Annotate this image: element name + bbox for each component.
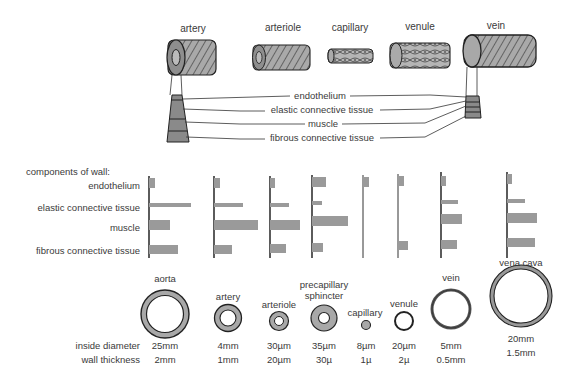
bar <box>149 220 170 230</box>
bar <box>312 177 326 187</box>
vein-wall-section <box>465 67 481 118</box>
label-venule: venule <box>405 21 434 32</box>
bar <box>507 199 525 203</box>
cs-name-venule: venule <box>390 298 418 309</box>
bar <box>149 203 191 207</box>
inside-diameter-value: 8µm <box>357 340 376 351</box>
bar <box>507 174 512 184</box>
layer-label-elastic: elastic connective tissue <box>271 104 373 115</box>
wall-thickness-value: 2µ <box>399 354 410 365</box>
layer-label-fibrous: fibrous connective tissue <box>270 132 374 143</box>
label-artery: artery <box>180 23 206 34</box>
inside-diameter-value: 20µm <box>392 340 416 351</box>
bar <box>214 220 258 230</box>
layer-label-muscle: muscle <box>308 118 338 129</box>
cs-name-arteriole: arteriole <box>262 299 296 310</box>
bar <box>270 178 275 188</box>
arteriole-illustration <box>253 45 311 70</box>
bar <box>312 201 322 205</box>
bar <box>214 203 243 207</box>
component-row-endothelium: endothelium <box>88 180 140 191</box>
cs-name-artery: artery <box>216 291 240 302</box>
bar <box>312 216 348 226</box>
wall-components-chart <box>149 172 537 258</box>
cs-name-precapillary: precapillary <box>300 279 349 290</box>
component-row-fibrous: fibrous connective tissue <box>36 245 140 256</box>
bar <box>441 200 458 204</box>
bar <box>214 178 220 188</box>
bar <box>363 177 369 187</box>
inside-diameter-value: 25mm <box>152 340 178 351</box>
bar <box>312 243 323 252</box>
bar <box>270 220 300 230</box>
bar <box>441 176 446 186</box>
component-row-elastic: elastic connective tissue <box>38 202 140 213</box>
venule-illustration <box>390 43 450 68</box>
layer-label-endothelium: endothelium <box>294 90 346 101</box>
bar <box>441 240 457 249</box>
bar <box>507 213 537 223</box>
wall-thickness-value: 0.5mm <box>436 354 465 365</box>
cs-name-capillary: capillary <box>348 307 383 318</box>
inside-diameter-value: 30µm <box>267 340 291 351</box>
cs-name-vein: vein <box>442 272 459 283</box>
diagram-canvas <box>0 0 577 380</box>
bar <box>270 244 286 253</box>
row-label-diameter: inside diameter <box>76 340 140 351</box>
components-heading: components of wall: <box>26 166 110 177</box>
capillary-ring <box>362 321 371 330</box>
bar <box>149 245 178 254</box>
vein-illustration <box>463 35 536 67</box>
bar <box>441 214 462 224</box>
row-label-thickness: wall thickness <box>81 354 140 365</box>
label-arteriole: arteriole <box>265 22 301 33</box>
wall-thickness-value: 1µ <box>361 354 372 365</box>
cs-name-aorta: aorta <box>154 273 176 284</box>
wall-thickness-value: 30µ <box>316 354 332 365</box>
wall-thickness-value: 1mm <box>217 354 238 365</box>
capillary-illustration <box>328 49 373 63</box>
inside-diameter-value: 20mm <box>508 333 534 344</box>
bar <box>149 178 155 188</box>
venule-ring <box>395 312 413 330</box>
cs-name-sphincter: sphincter <box>305 290 344 301</box>
wall-thickness-value: 2mm <box>154 354 175 365</box>
wall-thickness-value: 20µm <box>267 354 291 365</box>
bar <box>270 203 289 207</box>
bar <box>507 238 535 247</box>
label-vein: vein <box>487 20 505 31</box>
bar <box>214 245 232 254</box>
wall-thickness-value: 1.5mm <box>506 347 535 358</box>
bar <box>398 241 408 250</box>
artery-illustration <box>167 40 216 75</box>
cross-sections <box>141 265 552 338</box>
cs-name-vena-cava: vena cava <box>499 257 542 268</box>
inside-diameter-value: 4mm <box>217 340 238 351</box>
label-capillary: capillary <box>332 22 369 33</box>
artery-wall-section <box>167 75 189 142</box>
vena-cava-ring <box>492 267 550 325</box>
bar <box>398 176 404 186</box>
component-row-muscle: muscle <box>110 222 140 233</box>
inside-diameter-value: 5mm <box>440 340 461 351</box>
inside-diameter-value: 35µm <box>312 340 336 351</box>
